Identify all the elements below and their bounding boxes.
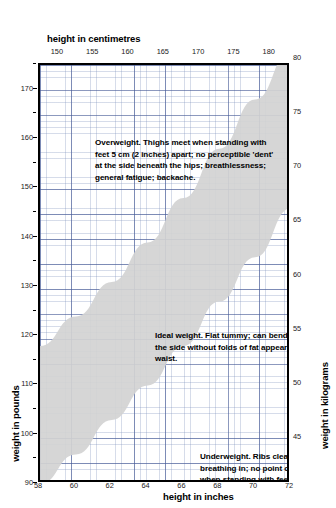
top-tick-label: 170 bbox=[192, 47, 204, 56]
left-tick-mark-minor bbox=[33, 457, 36, 458]
bottom-tick-label: 64 bbox=[141, 481, 149, 490]
height-weight-chart: height in centimetres 150155160165170175… bbox=[0, 0, 336, 508]
left-tick-mark bbox=[33, 433, 37, 434]
annotation-underweight: Underweight. Ribs clearly visible on bre… bbox=[200, 451, 289, 482]
top-tick-label: 165 bbox=[157, 47, 169, 56]
left-tick-mark bbox=[33, 383, 37, 384]
bottom-tick-label: 68 bbox=[213, 481, 221, 490]
right-tick-label: 70 bbox=[293, 161, 301, 170]
left-tick-mark bbox=[33, 285, 37, 286]
right-tick-label: 50 bbox=[293, 378, 301, 387]
top-tick-label: 175 bbox=[227, 47, 239, 56]
left-tick-label: 150 bbox=[21, 182, 33, 191]
plot-area: Overweight. Thighs meet when standing wi… bbox=[38, 63, 289, 482]
left-tick-mark-minor bbox=[33, 211, 36, 212]
bottom-tick-label: 66 bbox=[177, 481, 185, 490]
top-tick-label: 180 bbox=[263, 47, 275, 56]
left-tick-label: 110 bbox=[21, 379, 33, 388]
left-tick-label: 100 bbox=[21, 428, 33, 437]
annotation-overweight: Overweight. Thighs meet when standing wi… bbox=[95, 137, 275, 183]
left-tick-mark bbox=[33, 186, 37, 187]
ideal-weight-band bbox=[40, 65, 289, 482]
bottom-tick-label: 62 bbox=[106, 481, 114, 490]
top-axis-title: height in centimetres bbox=[47, 33, 140, 44]
right-tick-label: 55 bbox=[293, 323, 301, 332]
left-tick-label: 140 bbox=[21, 231, 33, 240]
left-tick-mark-minor bbox=[33, 63, 36, 64]
left-axis-title: weight in pounds bbox=[10, 384, 21, 464]
left-tick-mark-minor bbox=[33, 162, 36, 163]
left-tick-mark bbox=[33, 137, 37, 138]
left-tick-label: 130 bbox=[21, 280, 33, 289]
bottom-tick-label: 58 bbox=[34, 481, 42, 490]
left-tick-mark bbox=[33, 334, 37, 335]
left-tick-mark bbox=[33, 236, 37, 237]
right-tick-label: 75 bbox=[293, 106, 301, 115]
left-tick-mark-minor bbox=[33, 112, 36, 113]
left-tick-mark-minor bbox=[33, 310, 36, 311]
top-tick-label: 150 bbox=[51, 47, 63, 56]
left-tick-mark-minor bbox=[33, 260, 36, 261]
bottom-tick-label: 72 bbox=[285, 481, 293, 490]
left-tick-label: 160 bbox=[21, 132, 33, 141]
right-tick-label: 45 bbox=[293, 432, 301, 441]
left-tick-mark-minor bbox=[33, 408, 36, 409]
bottom-tick-label: 70 bbox=[249, 481, 257, 490]
left-tick-label: 120 bbox=[21, 330, 33, 339]
right-tick-label: 65 bbox=[293, 215, 301, 224]
left-tick-mark bbox=[33, 88, 37, 89]
right-axis-title: weight in kilograms bbox=[319, 358, 330, 454]
bottom-axis-title: height in inches bbox=[163, 491, 234, 502]
top-tick-label: 160 bbox=[121, 47, 133, 56]
annotation-ideal: Ideal weight. Flat tummy; can bend easil… bbox=[155, 330, 289, 365]
right-tick-label: 80 bbox=[293, 52, 301, 61]
bottom-tick-label: 60 bbox=[70, 481, 78, 490]
top-tick-label: 155 bbox=[86, 47, 98, 56]
right-tick-label: 60 bbox=[293, 269, 301, 278]
left-tick-label: 90 bbox=[25, 478, 33, 487]
left-tick-label: 170 bbox=[21, 83, 33, 92]
left-tick-mark-minor bbox=[33, 359, 36, 360]
